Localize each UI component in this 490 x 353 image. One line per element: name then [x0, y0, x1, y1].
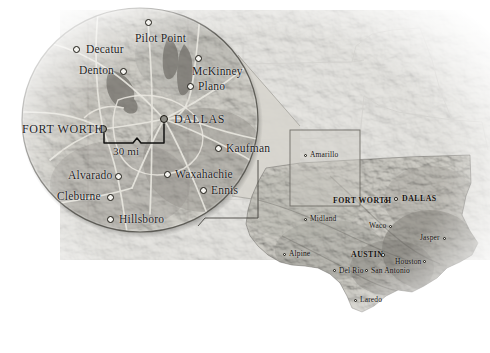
inset-city-dot-decatur [73, 46, 80, 53]
state-city-dot-midland [304, 218, 307, 221]
state-city-dot-fort-worth [384, 199, 388, 203]
state-city-dot-dallas [394, 197, 398, 201]
page-vignette [0, 0, 490, 353]
state-city-dot-del-rio [333, 269, 336, 272]
inset-city-dot-waxahachie [164, 171, 171, 178]
inset-city-dot-plano [187, 83, 194, 90]
inset-city-dot-ennis [200, 187, 207, 194]
inset-city-dot-cleburne [107, 194, 114, 201]
map-base-layer [0, 0, 490, 353]
state-city-dot-austin [381, 253, 385, 257]
inset-city-dot-alvarado [115, 173, 122, 180]
state-city-dot-waco [389, 225, 392, 228]
state-city-dot-alpine [283, 253, 286, 256]
inset-city-dot-denton [120, 68, 127, 75]
state-city-dot-jasper [443, 237, 446, 240]
state-city-dot-amarillo [304, 154, 307, 157]
inset-city-dot-mckinney [195, 55, 202, 62]
state-city-dot-san-antonio [365, 269, 368, 272]
inset-city-dot-fort-worth [99, 125, 107, 133]
state-city-dot-houston [423, 260, 426, 263]
inset-city-dot-pilot-point [145, 19, 152, 26]
inset-city-dot-dallas [160, 115, 168, 123]
inset-city-dot-kaufman [215, 145, 222, 152]
map-figure: Pilot PointDecaturMcKinneyDentonPlanoDAL… [0, 0, 490, 353]
state-city-dot-laredo [354, 299, 357, 302]
inset-city-dot-hillsboro [107, 216, 114, 223]
